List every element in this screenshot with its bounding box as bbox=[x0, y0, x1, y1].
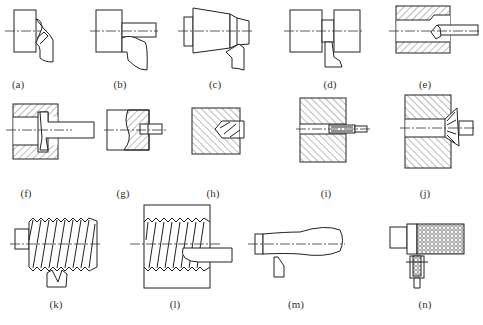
panel-label-g: (g) bbox=[117, 187, 130, 199]
panel-label-n: (n) bbox=[419, 298, 432, 310]
panel-i-reaming bbox=[296, 98, 370, 162]
panel-label-h: (h) bbox=[207, 187, 220, 199]
panel-a-facing bbox=[5, 10, 53, 62]
diagram-drawing bbox=[0, 0, 483, 325]
lathe-operations-diagram: (a) (b) (c) (d) (e) (f) (g) (h) (i) (j) … bbox=[0, 0, 483, 325]
panel-j-countersinking bbox=[400, 95, 476, 168]
panel-e-boring bbox=[389, 6, 480, 53]
panel-label-d: (d) bbox=[324, 78, 337, 90]
panel-f-internal-grooving bbox=[6, 104, 94, 159]
panel-label-k: (k) bbox=[50, 298, 63, 310]
panel-label-m: (m) bbox=[288, 298, 304, 310]
panel-label-b: (b) bbox=[114, 78, 127, 90]
panel-label-l: (l) bbox=[170, 298, 180, 310]
panel-label-a: (a) bbox=[12, 78, 24, 90]
panel-label-i: (i) bbox=[321, 187, 331, 199]
panel-label-f: (f) bbox=[21, 187, 32, 199]
panel-g-center-drilling bbox=[104, 110, 166, 150]
panel-c-taper-turning bbox=[178, 8, 252, 70]
panel-h-drilling bbox=[192, 108, 244, 154]
panel-d-grooving bbox=[284, 10, 362, 67]
panel-b-external-turning bbox=[90, 10, 158, 70]
panel-label-c: (c) bbox=[209, 78, 221, 90]
panel-m-form-turning bbox=[248, 227, 345, 277]
panel-label-j: (j) bbox=[420, 187, 430, 199]
panel-l-internal-threading bbox=[130, 205, 232, 288]
panel-label-e: (e) bbox=[419, 78, 431, 90]
panel-n-knurling bbox=[390, 224, 464, 288]
panel-k-external-threading bbox=[10, 218, 100, 287]
